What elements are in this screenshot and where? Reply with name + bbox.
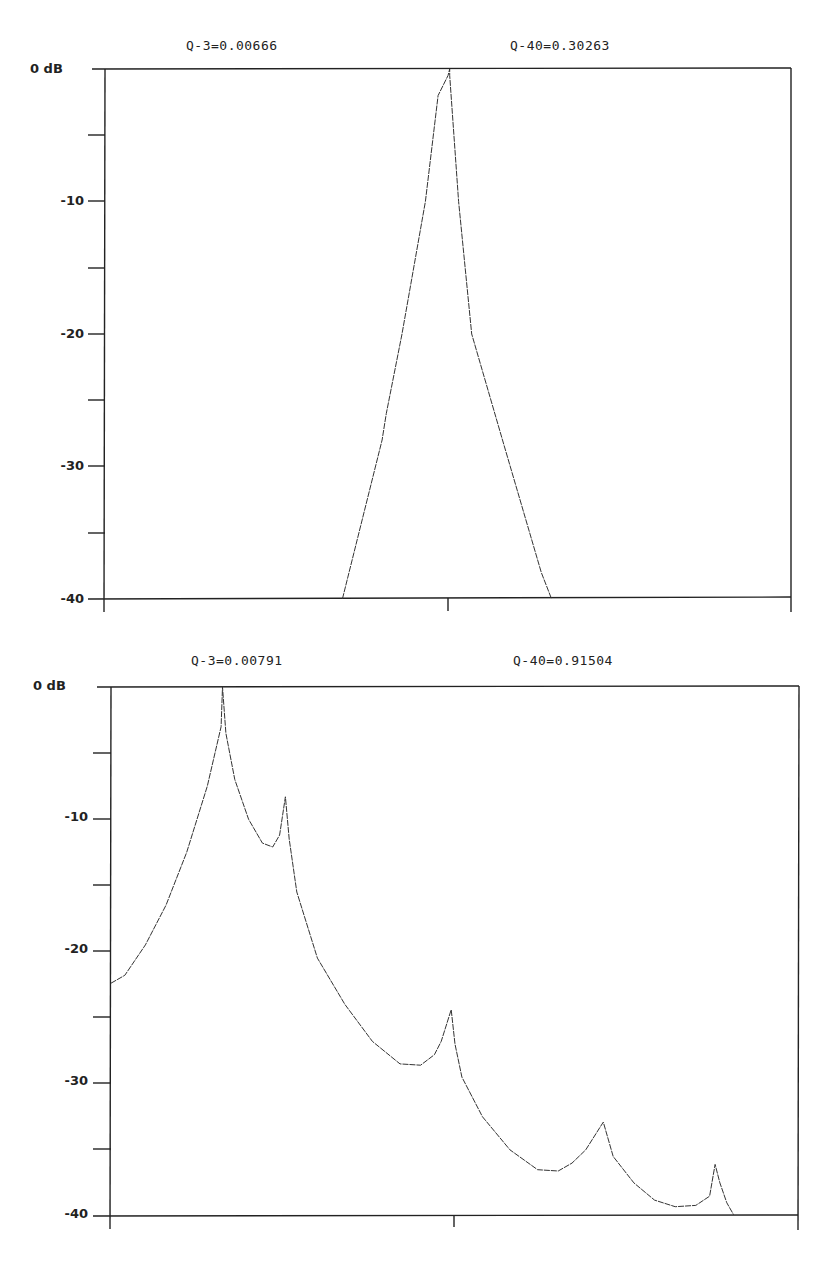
bottom-plot-area	[0, 630, 824, 1262]
top-response-curve	[342, 69, 551, 599]
bottom-response-curve	[111, 687, 734, 1215]
top-frequency-response-chart: Q-3=0.00666 Q-40=0.30263 0 dB -10 -20 -3…	[0, 0, 824, 630]
bottom-frequency-response-chart: Q-3=0.00791 Q-40=0.91504 0 dB -10 -20 -3…	[0, 630, 824, 1262]
top-plot-area	[0, 0, 824, 630]
